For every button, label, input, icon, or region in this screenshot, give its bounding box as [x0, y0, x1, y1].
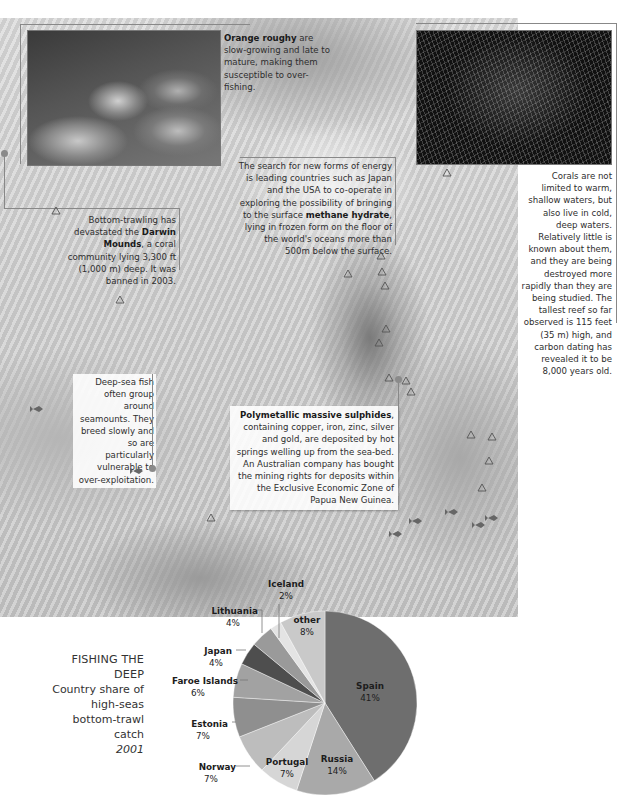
- pie-label-other: other 8%: [287, 614, 327, 638]
- label-value: 7%: [186, 773, 236, 785]
- pie-label-norway: Norway 7%: [186, 761, 236, 785]
- pie-label-portugal: Portugal 7%: [262, 756, 312, 780]
- label-value: 4%: [208, 617, 258, 629]
- label-name: Norway: [186, 761, 236, 773]
- label-name: other: [287, 614, 327, 626]
- label-name: Japan: [200, 645, 232, 657]
- pie-label-spain: Spain 41%: [345, 680, 395, 704]
- pie-label-faroe-islands: Faroe Islands 6%: [158, 675, 238, 699]
- label-value: 14%: [312, 765, 362, 777]
- pie-label-lithuania: Lithuania 4%: [208, 605, 258, 629]
- pie-label-estonia: Estonia 7%: [178, 718, 228, 742]
- label-name: Spain: [345, 680, 395, 692]
- label-value: 4%: [200, 657, 232, 669]
- label-value: 7%: [262, 768, 312, 780]
- label-value: 7%: [178, 730, 228, 742]
- label-name: Russia: [312, 753, 362, 765]
- label-value: 8%: [287, 626, 327, 638]
- label-name: Estonia: [178, 718, 228, 730]
- label-name: Portugal: [262, 756, 312, 768]
- pie-label-japan: Japan 4%: [200, 645, 232, 669]
- label-value: 6%: [158, 687, 238, 699]
- label-name: Faroe Islands: [158, 675, 238, 687]
- label-value: 2%: [264, 590, 308, 602]
- pie-label-russia: Russia 14%: [312, 753, 362, 777]
- pie-label-iceland: Iceland 2%: [264, 578, 308, 602]
- label-name: Lithuania: [208, 605, 258, 617]
- label-name: Iceland: [264, 578, 308, 590]
- pie-chart: [0, 0, 633, 806]
- label-value: 41%: [345, 692, 395, 704]
